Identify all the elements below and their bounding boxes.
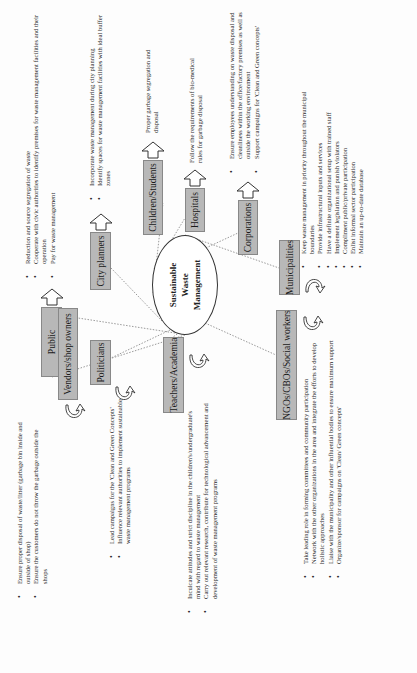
diagram-canvas: Sustainable Waste Management Public •Red… [0,0,417,673]
list-item: Follow the requirements of bio-medical r… [188,53,204,163]
children-students-box: Children/Students [143,160,163,235]
list-item: •Enlist informal sector participation [349,68,357,268]
list-item: •Have a definite organizational setup wi… [325,68,333,268]
public-list: •Reduction and source segregation of was… [24,8,57,278]
list-item: •Carry out relevant research, contribute… [202,398,218,613]
arrow-up-icon [236,181,260,199]
list-item: •Cooperate with civic authorities to ide… [32,8,48,278]
arrow-up-icon [141,141,165,159]
ngos-list: •Take leading role in forming committees… [302,338,343,578]
center-label-line3: Management [191,260,203,311]
curved-arrow-icon [186,351,210,373]
list-item: •Maintain an up-to-date database [357,68,365,268]
teachers-box: Teachers/Academia [163,337,184,413]
hospitals-list: Follow the requirements of bio-medical r… [188,53,204,163]
list-item: •Take leading role in forming committees… [302,338,310,578]
list-item: •Implement legislation and punish violat… [333,68,341,268]
corporations-box: Corporations [238,200,258,255]
vendors-box: Vendors/shop owners [58,308,78,400]
list-item: •Ensure the customers do not throw the g… [32,413,48,598]
list-item: •Influence relevant authorities to imple… [116,398,132,558]
list-item: Proper garbage segregation and disposal [144,48,160,133]
politicians-list: •Lead campaigns for the 'Clean and Green… [108,398,133,558]
list-item: •Pay for waste management [49,8,57,278]
children-students-label: Children/Students [148,163,158,232]
list-item: •Reduction and source segregation of was… [24,8,32,278]
politicians-box: Politicians [90,340,111,385]
ngos-label: NGOs/CBOs/Social workers [282,310,292,420]
list-item: •Ensure proper disposal of waste/litter … [16,413,32,598]
arrow-up-icon [89,213,113,231]
hospitals-label: Hospitals [190,192,200,228]
ngos-box: NGOs/CBOs/Social workers [276,310,297,420]
connector-politicians [111,330,170,358]
connector-vendors [78,318,175,333]
list-item: •Lead campaigns for the 'Clean and Green… [108,398,116,558]
teachers-label: Teachers/Academia [169,338,179,413]
center-node: Sustainable Waste Management [152,235,218,335]
list-item: •Identify spaces for waste management fa… [96,5,112,200]
vendors-label: Vendors/shop owners [63,313,73,395]
list-item: •Provide infrastructural inputs and serv… [316,68,324,268]
connector-ngos [205,323,276,355]
hospitals-box: Hospitals [185,188,205,232]
city-planners-label: City planners [96,236,106,287]
center-label-line1: Sustainable [167,260,179,311]
list-item: •Ensure employees understanding on waste… [228,3,253,173]
center-label-line2: Waste [179,260,191,311]
list-item: •Organize/sponsor for campaigns on 'Clea… [335,338,343,578]
list-item: •Liaise with the municipality and other … [327,338,335,578]
municipalities-label: Municipalities [285,240,295,295]
list-item: •Incorporate waste management during cit… [88,5,96,200]
arrow-up-icon [40,288,64,306]
city-planners-list: •Incorporate waste management during cit… [88,5,113,200]
list-item: •Network with the other organizations in… [310,338,326,578]
list-item: •Support campaigns for 'Clean and Green … [253,3,261,173]
arrow-up-icon [183,169,207,187]
list-item: •Compliment public/private participation [341,68,349,268]
vendors-list: •Ensure proper disposal of waste/litter … [16,413,49,598]
list-item: •Inculcate attitudes and strict discipli… [186,398,202,613]
teachers-list: •Inculcate attitudes and strict discipli… [186,398,219,613]
municipalities-list: •Keep waste management in priority throu… [300,68,366,268]
curved-arrow-icon [302,274,326,296]
city-planners-box: City planners [90,232,111,290]
municipalities-box: Municipalities [279,240,300,295]
public-label: Public [47,330,57,354]
corporations-label: Corporations [243,203,253,253]
curved-arrow-icon [62,401,86,423]
curved-arrow-icon [300,313,324,335]
list-item: •Keep waste management in priority throu… [300,68,316,268]
children-students-list: Proper garbage segregation and disposal [144,48,160,133]
politicians-label: Politicians [96,342,106,382]
corporations-list: •Ensure employees understanding on waste… [228,3,261,173]
